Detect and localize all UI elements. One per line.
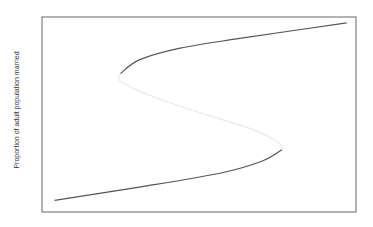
series-line-upper-stable-branch xyxy=(121,23,347,74)
series-layer xyxy=(55,23,347,200)
series-line-lower-stable-branch xyxy=(55,150,283,201)
y-axis-label: Proportion of adult population married xyxy=(13,51,21,168)
series-line-unstable-middle-branch xyxy=(118,74,282,150)
chart: Proportion of adult population married xyxy=(0,0,373,227)
plot-frame xyxy=(42,17,356,212)
